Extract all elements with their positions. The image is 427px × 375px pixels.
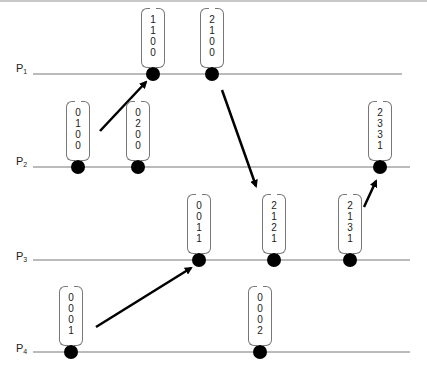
vector-component: 0 — [59, 303, 83, 314]
message-arrow — [364, 181, 376, 207]
event-dot — [253, 345, 267, 359]
vector-timestamp: 0200 — [126, 101, 150, 161]
event-dot — [205, 67, 219, 81]
vector-component: 0 — [248, 292, 272, 303]
event-dot — [192, 253, 206, 267]
vector-component: 0 — [59, 314, 83, 325]
vector-component: 2 — [248, 325, 272, 336]
vector-component: 2 — [126, 118, 150, 129]
vector-component: 3 — [338, 222, 362, 233]
process-label-p1: P1 — [16, 62, 27, 75]
vector-timestamp: 2100 — [200, 8, 224, 68]
event-dot — [71, 160, 85, 174]
vector-component: 2 — [262, 200, 286, 211]
vector-component: 1 — [262, 211, 286, 222]
vector-component: 1 — [141, 14, 165, 25]
event-dot — [146, 67, 160, 81]
vector-timestamp: 0100 — [66, 101, 90, 161]
message-arrow — [96, 268, 191, 327]
vector-component: 0 — [187, 211, 211, 222]
vector-component: 0 — [126, 107, 150, 118]
event-dot — [373, 160, 387, 174]
message-arrow — [222, 90, 256, 186]
event-dot — [64, 345, 78, 359]
vector-component: 0 — [66, 129, 90, 140]
vector-component: 2 — [262, 222, 286, 233]
vector-timestamp: 2131 — [338, 194, 362, 254]
vector-component: 0 — [126, 140, 150, 151]
vector-component: 1 — [262, 233, 286, 244]
vector-timestamp: 2331 — [368, 101, 392, 161]
vector-component: 0 — [59, 292, 83, 303]
vector-component: 0 — [248, 314, 272, 325]
vector-component: 0 — [200, 36, 224, 47]
vector-timestamp: 1100 — [141, 8, 165, 68]
vector-component: 1 — [141, 25, 165, 36]
vector-component: 1 — [200, 25, 224, 36]
vector-component: 0 — [200, 47, 224, 58]
vector-component: 1 — [338, 233, 362, 244]
vector-component: 1 — [338, 211, 362, 222]
vector-component: 0 — [248, 303, 272, 314]
vector-component: 0 — [141, 36, 165, 47]
vector-component: 1 — [187, 222, 211, 233]
process-label-p2: P2 — [16, 155, 27, 168]
vector-component: 0 — [66, 107, 90, 118]
vector-component: 1 — [59, 325, 83, 336]
vector-component: 0 — [66, 140, 90, 151]
event-dot — [267, 253, 281, 267]
process-label-p4: P4 — [16, 342, 27, 355]
vector-component: 1 — [368, 140, 392, 151]
process-label-p3: P3 — [16, 250, 27, 263]
vector-component: 1 — [66, 118, 90, 129]
vector-component: 3 — [368, 129, 392, 140]
event-dot — [131, 160, 145, 174]
vector-component: 2 — [338, 200, 362, 211]
vector-component: 1 — [187, 233, 211, 244]
vector-timestamp: 2121 — [262, 194, 286, 254]
event-dot — [343, 253, 357, 267]
vector-timestamp: 0002 — [248, 286, 272, 346]
vector-component: 3 — [368, 118, 392, 129]
vector-component: 2 — [368, 107, 392, 118]
vector-component: 2 — [200, 14, 224, 25]
vector-component: 0 — [187, 200, 211, 211]
vector-component: 0 — [141, 47, 165, 58]
vector-timestamp: 0001 — [59, 286, 83, 346]
vector-component: 0 — [126, 129, 150, 140]
vector-timestamp: 0011 — [187, 194, 211, 254]
